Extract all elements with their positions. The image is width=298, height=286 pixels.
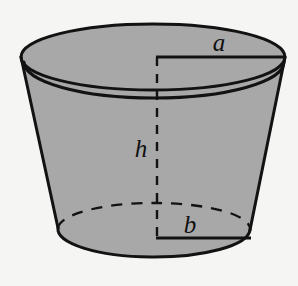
label-height-h: h (135, 135, 148, 162)
label-bottom-radius-b: b (184, 211, 197, 238)
label-top-radius-a: a (213, 29, 226, 56)
frustum-svg: a b h (0, 0, 298, 286)
frustum-figure: a b h (0, 0, 298, 286)
